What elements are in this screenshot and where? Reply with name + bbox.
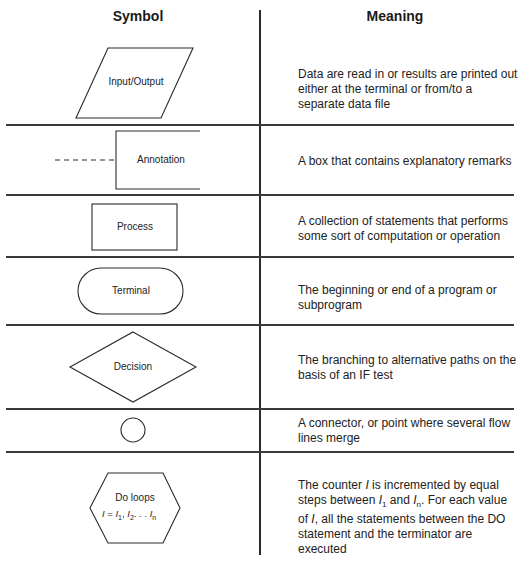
var: In	[413, 493, 421, 507]
var: I1	[379, 493, 387, 507]
process-label: Process	[100, 221, 170, 232]
formula-eq: =	[105, 508, 116, 519]
input-output-label: Input/Output	[96, 76, 176, 87]
meaning-decision: The branching to alternative paths on th…	[298, 353, 518, 383]
text: The counter	[298, 478, 365, 492]
meaning-annotation: A box that contains explanatory remarks	[298, 154, 518, 169]
do-loops-label: Do loops	[100, 492, 170, 503]
decision-label: Decision	[98, 361, 168, 372]
terminal-label: Terminal	[96, 285, 166, 296]
connector-circle-icon	[121, 418, 145, 442]
meaning-process: A collection of statements that performs…	[298, 214, 518, 244]
meaning-input-output: Data are read in or results are printed …	[298, 67, 518, 112]
formula-sub: n	[152, 514, 156, 521]
do-loops-formula: I = I1, I2. . . In	[102, 508, 156, 521]
text: , all the statements between the DO stat…	[298, 512, 505, 556]
text: and	[387, 493, 414, 507]
annotation-label: Annotation	[126, 154, 196, 165]
meaning-terminal: The beginning or end of a program or sub…	[298, 283, 518, 313]
formula-dots: . . .	[134, 508, 150, 519]
meaning-do-loops: The counter I is incremented by equal st…	[298, 478, 518, 557]
meaning-connector: A connector, or point where several flow…	[298, 416, 518, 446]
